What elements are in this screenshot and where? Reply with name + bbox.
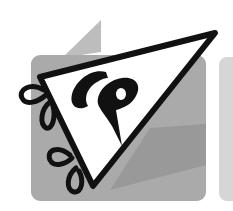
p-counter <box>116 88 126 100</box>
side-panel <box>219 57 233 201</box>
cp-pennant-logo <box>0 0 233 211</box>
back-fold-shape <box>62 20 101 58</box>
logo-graphic <box>0 0 233 211</box>
